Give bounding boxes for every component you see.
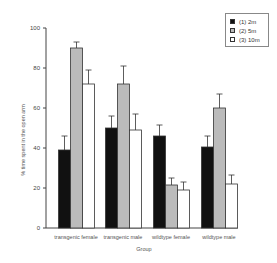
y-tick-label: 60: [33, 105, 40, 111]
bar: [178, 190, 190, 228]
category-label: transgenic male: [104, 234, 143, 240]
legend: (1) 2m(2) 5m(3) 10m: [225, 13, 269, 47]
y-tick-label: 20: [33, 185, 40, 191]
legend-swatch-icon: [230, 19, 235, 24]
legend-item: (2) 5m: [230, 26, 268, 35]
legend-label: (2) 5m: [239, 28, 256, 34]
legend-swatch-icon: [230, 37, 235, 42]
bars: [59, 42, 238, 228]
legend-label: (1) 2m: [239, 19, 256, 25]
y-tick-label: 80: [33, 65, 40, 71]
bar: [226, 184, 238, 228]
legend-item: (1) 2m: [230, 17, 268, 26]
bar: [106, 128, 118, 228]
bar: [130, 130, 142, 228]
bar: [154, 136, 166, 228]
category-label: transgenic female: [54, 234, 97, 240]
category-label: wildtype male: [201, 234, 235, 240]
legend-label: (3) 10m: [239, 37, 260, 43]
bar: [214, 108, 226, 228]
bar: [59, 150, 71, 228]
y-tick-label: 100: [30, 25, 41, 31]
bar: [118, 84, 130, 228]
legend-item: (3) 10m: [230, 35, 268, 44]
y-tick-label: 0: [37, 225, 41, 231]
bar: [166, 185, 178, 228]
bar: [71, 48, 83, 228]
x-axis-title: Group: [136, 246, 151, 252]
legend-swatch-icon: [230, 28, 235, 33]
bar: [202, 147, 214, 228]
bar: [83, 84, 95, 228]
category-label: wildtype female: [151, 234, 190, 240]
y-tick-label: 40: [33, 145, 40, 151]
y-axis-title: % time spent in the open arm: [20, 104, 26, 176]
